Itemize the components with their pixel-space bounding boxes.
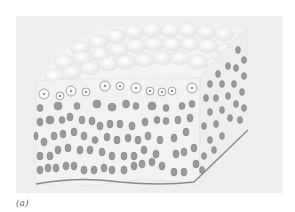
epithelium-illustration <box>0 0 295 212</box>
front-face <box>34 78 200 186</box>
figure-caption: (a) <box>16 198 28 208</box>
